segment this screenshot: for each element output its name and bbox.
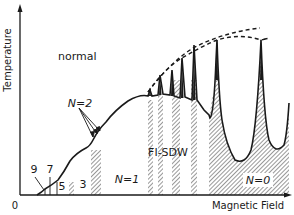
y-axis-label: Temperature xyxy=(2,28,13,92)
dashed-envelope xyxy=(148,37,268,93)
region-label-normal: normal xyxy=(58,50,97,63)
dashed-envelope-upper xyxy=(148,28,260,92)
phase-label-3: 3 xyxy=(80,178,87,191)
n0-label-box: N=0 xyxy=(243,173,273,187)
phase-label-5: 5 xyxy=(59,180,66,193)
x-axis-label: Magnetic Field xyxy=(212,200,284,211)
phase-label-n1: N=1 xyxy=(115,173,139,186)
diagram-canvas: Temperature Magnetic Field 0 normal FI-S… xyxy=(0,0,294,215)
n2-arrows xyxy=(79,108,100,137)
phase-label-n0: N=0 xyxy=(246,174,270,187)
phase-label-9: 9 xyxy=(31,163,38,176)
phase-label-n2: N=2 xyxy=(68,97,92,110)
origin-label: 0 xyxy=(12,200,18,211)
label-9-pointer xyxy=(35,177,44,190)
y-axis-arrow-icon xyxy=(18,4,23,12)
region-label-fisdw: FI-SDW xyxy=(148,146,188,159)
phase-diagram: Temperature Magnetic Field 0 normal FI-S… xyxy=(0,0,294,215)
phase-label-7: 7 xyxy=(47,163,54,176)
